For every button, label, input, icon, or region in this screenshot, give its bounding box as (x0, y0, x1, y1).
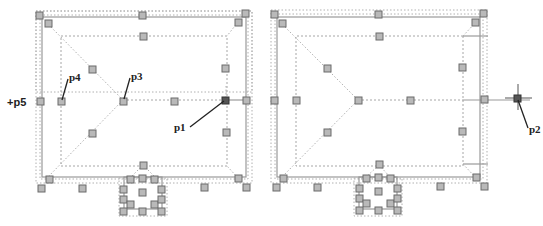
selected-grip-p2[interactable] (514, 95, 521, 102)
hip-line-bl (280, 100, 358, 179)
grips-left[interactable] (36, 10, 250, 215)
ridge-rect-left (296, 36, 463, 166)
label-p5: +p5 (7, 96, 26, 108)
leader-p3 (124, 78, 130, 99)
label-p2: p2 (529, 123, 541, 135)
hip-line-tl (280, 22, 358, 100)
right-panel: p2 (271, 10, 541, 216)
label-p3: p3 (131, 70, 143, 82)
roof-grip-diagram: p4 p3 p1 +p5 (0, 0, 543, 226)
label-p4: p4 (69, 71, 81, 83)
hip-line-bl (46, 100, 123, 179)
hip-line-tl (46, 22, 123, 100)
ridge-rect (61, 36, 227, 166)
wall-outline (277, 17, 480, 177)
wall-outline (42, 17, 246, 177)
leader-p1 (190, 101, 224, 127)
leader-p4 (62, 79, 68, 100)
selected-grip-p1[interactable] (222, 97, 229, 104)
label-p1: p1 (174, 121, 186, 133)
leader-p2 (518, 100, 528, 128)
left-panel: p4 p3 p1 +p5 (7, 10, 252, 216)
